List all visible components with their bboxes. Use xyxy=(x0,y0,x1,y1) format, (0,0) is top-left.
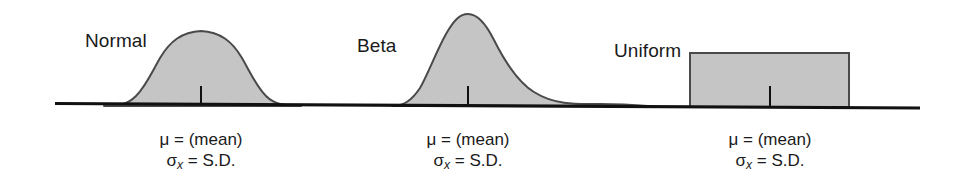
distribution-label-beta: Beta xyxy=(357,35,397,57)
caption-uniform: μ = (mean) σx = S.D. xyxy=(728,129,811,176)
normal-sd-equals: = S.D. xyxy=(183,151,235,170)
beta-sd-equals: = S.D. xyxy=(450,151,502,170)
uniform-sd-equals: = S.D. xyxy=(752,151,804,170)
caption-normal: μ = (mean) σx = S.D. xyxy=(159,129,242,176)
beta-sd-text: σx = S.D. xyxy=(426,150,509,176)
uniform-sigma-symbol: σ xyxy=(736,151,747,170)
distribution-label-normal: Normal xyxy=(85,30,147,52)
caption-beta: μ = (mean) σx = S.D. xyxy=(426,129,509,176)
beta-distribution-curve xyxy=(392,14,648,106)
uniform-mean-text: μ = (mean) xyxy=(728,129,811,150)
normal-sd-text: σx = S.D. xyxy=(159,150,242,176)
beta-sigma-symbol: σ xyxy=(434,151,445,170)
distribution-shapes-figure: Normal Beta Uniform μ = (mean) σx = S.D.… xyxy=(0,0,958,185)
distribution-label-uniform: Uniform xyxy=(614,40,681,62)
uniform-sd-text: σx = S.D. xyxy=(728,150,811,176)
beta-mean-text: μ = (mean) xyxy=(426,129,509,150)
normal-sigma-symbol: σ xyxy=(167,151,178,170)
normal-mean-text: μ = (mean) xyxy=(159,129,242,150)
